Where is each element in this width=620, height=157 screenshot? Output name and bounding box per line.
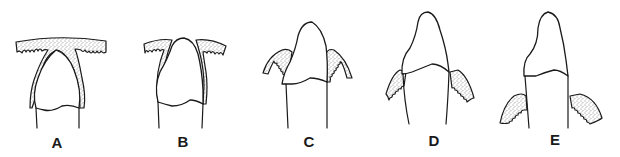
panel-label-c: C — [304, 133, 315, 150]
tooth-crown — [524, 12, 568, 76]
panel-a — [16, 38, 106, 128]
gingiva-left — [500, 94, 527, 124]
gingiva-right — [326, 50, 352, 83]
panel-d — [386, 12, 474, 124]
tooth-root — [286, 82, 327, 128]
tooth-root — [403, 72, 449, 124]
panel-label-a: A — [52, 134, 63, 151]
panel-label-d: D — [429, 132, 440, 149]
tooth-crown — [402, 12, 449, 74]
panel-c — [263, 22, 352, 128]
panel-label-e: E — [550, 131, 560, 148]
gingiva-right — [450, 70, 474, 102]
panel-b — [144, 38, 226, 128]
tooth-root — [158, 102, 203, 128]
tooth-eruption-diagram: A B C D E — [0, 0, 620, 157]
panel-label-b: B — [178, 133, 189, 150]
panel-e — [500, 12, 602, 128]
tooth-root — [525, 76, 568, 128]
tooth-root — [36, 108, 79, 128]
gingiva-right — [570, 94, 602, 124]
